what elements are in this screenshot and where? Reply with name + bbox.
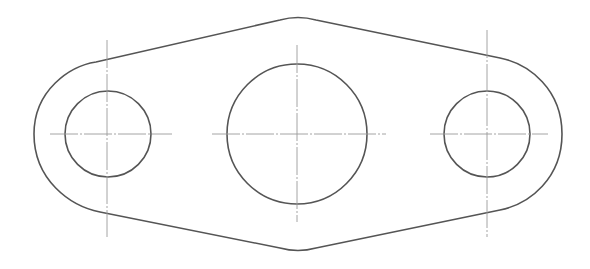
technical-drawing xyxy=(0,0,590,269)
